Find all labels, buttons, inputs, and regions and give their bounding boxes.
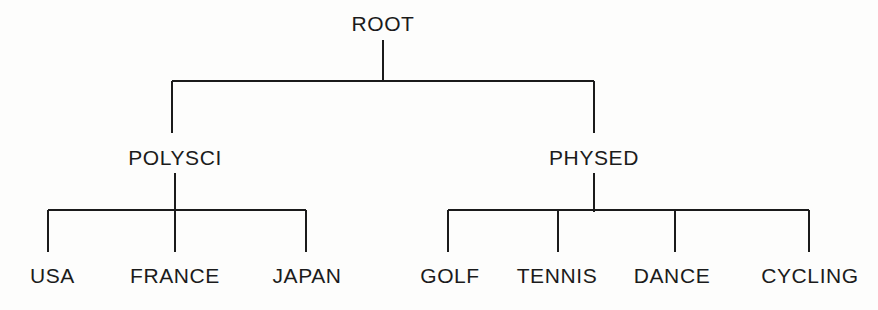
- node-japan: JAPAN: [272, 265, 341, 286]
- node-france: FRANCE: [130, 265, 220, 286]
- node-golf: GOLF: [420, 265, 480, 286]
- node-dance: DANCE: [634, 265, 711, 286]
- node-usa: USA: [30, 265, 75, 286]
- node-cycling: CYCLING: [761, 265, 859, 286]
- node-physed: PHYSED: [549, 147, 639, 168]
- node-polysci: POLYSCI: [128, 147, 222, 168]
- node-root: ROOT: [351, 13, 414, 34]
- tree-diagram: ROOT POLYSCI PHYSED USA FRANCE JAPAN GOL…: [0, 0, 878, 310]
- node-tennis: TENNIS: [517, 265, 598, 286]
